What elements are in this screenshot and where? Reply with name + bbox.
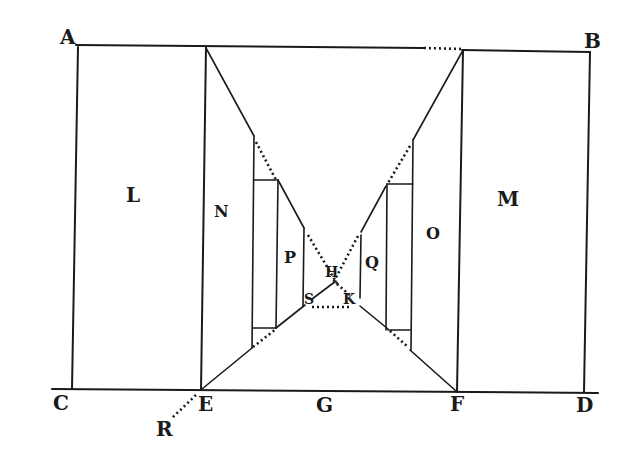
label-O: O: [426, 224, 440, 243]
line-ER-dotted: [172, 395, 196, 418]
line-N-left-vertical: [201, 47, 206, 390]
label-L: L: [126, 183, 140, 207]
line-N-inner-vertical: [252, 136, 254, 348]
line-O-bottom-to-F: [410, 350, 456, 391]
line-O-top-dotted: [388, 146, 410, 183]
line-N-bottom-dotted: [253, 329, 276, 347]
left-receding-walls: [172, 48, 338, 418]
perspective-diagram: A B C D E F G R L M N O P Q H S K: [0, 0, 629, 457]
label-G: G: [316, 393, 333, 417]
line-AB-right: [462, 50, 590, 52]
label-K: K: [343, 291, 356, 307]
point-labels: A B C D E F G R L M N O P Q H S K: [53, 25, 601, 441]
line-N-top-diagonal: [206, 48, 254, 136]
label-B: B: [584, 29, 601, 53]
label-P: P: [284, 248, 296, 267]
label-S: S: [304, 291, 314, 307]
line-P-left-vertical: [276, 180, 278, 328]
label-F: F: [450, 392, 464, 416]
label-R: R: [156, 417, 173, 441]
line-O-bottom-dotted: [390, 331, 408, 347]
line-Q-right-vertical: [386, 184, 387, 330]
line-Q-top-diagonal: [361, 186, 386, 232]
line-E-to-N-bottom: [202, 348, 252, 389]
line-Q-left-vertical: [360, 235, 361, 298]
line-N-top-dotted: [256, 142, 276, 180]
line-O-inner-vertical: [411, 140, 413, 350]
line-BD: [584, 52, 590, 392]
label-Q: Q: [365, 253, 379, 272]
right-receding-walls: [333, 52, 462, 391]
label-C: C: [53, 391, 69, 415]
line-P-top-diagonal: [278, 180, 304, 228]
label-H: H: [325, 264, 338, 280]
line-AC: [72, 47, 78, 389]
label-M: M: [497, 187, 519, 211]
line-O-right-vertical: [457, 50, 463, 392]
label-A: A: [59, 25, 76, 49]
line-AB-left: [76, 45, 424, 48]
line-AB-dotted: [424, 48, 462, 49]
line-S-to-H: [312, 281, 336, 299]
line-O-top-diagonal: [413, 52, 462, 140]
label-N: N: [214, 202, 229, 221]
line-K-to-Q-bottom: [360, 306, 388, 329]
outer-frame: [52, 45, 598, 393]
line-P-bottom-diagonal: [276, 305, 305, 328]
label-E: E: [198, 392, 213, 416]
label-D: D: [576, 393, 593, 417]
